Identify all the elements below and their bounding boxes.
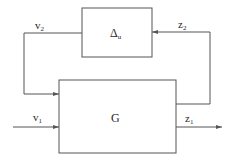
z2-signal-line: [152, 32, 210, 104]
v1-label: v1: [33, 112, 42, 125]
g-block-label: G: [111, 112, 120, 124]
v2-signal-line: [24, 33, 82, 94]
z1-label: z1: [185, 113, 193, 126]
v2-label: v2: [35, 20, 44, 33]
delta-block-label: Δu: [110, 27, 121, 41]
z2-label: z2: [178, 19, 186, 32]
